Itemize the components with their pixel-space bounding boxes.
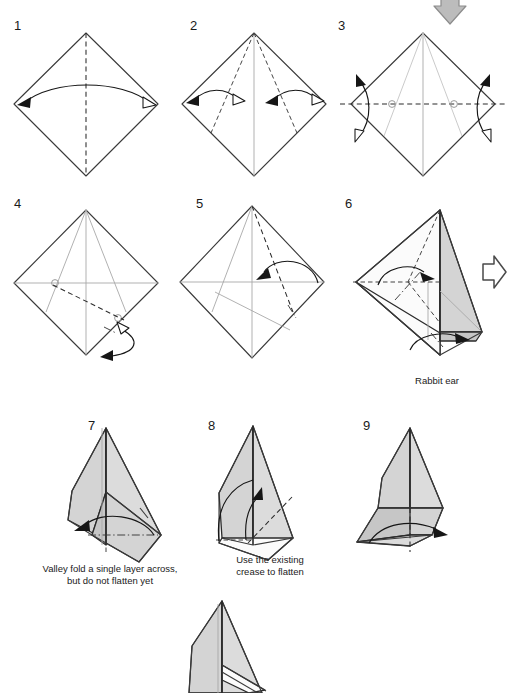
step-2-figure: 2 xyxy=(182,18,326,176)
step-3-arrowhead-left-solid xyxy=(356,74,366,87)
step-7-number: 7 xyxy=(88,418,95,433)
step-7-caption-line-1: Valley fold a single layer across, xyxy=(43,563,178,574)
step-5-number: 5 xyxy=(196,196,203,211)
step-9-number: 9 xyxy=(363,418,370,433)
step-1-figure: 1 xyxy=(14,18,158,176)
step-1-fold-arrow xyxy=(24,85,150,103)
step-4-valley-diagonal xyxy=(53,285,124,320)
step-8-figure: 8 Use the existing crease to flatten xyxy=(208,418,304,577)
origami-instruction-sheet: 1 2 3 xyxy=(0,0,507,693)
step-4-number: 4 xyxy=(14,196,21,211)
step-3-figure: 3 xyxy=(338,18,507,176)
step-3-arrowhead-left-hollow xyxy=(355,129,364,142)
step-4-arrowhead-solid xyxy=(100,350,113,361)
step-9-left-face xyxy=(378,428,410,508)
step-3-crease-right xyxy=(423,33,462,136)
step-2-arrowhead-right-solid xyxy=(265,95,278,106)
step-4-crease-right xyxy=(86,210,126,312)
step-1-arrowhead-hollow xyxy=(143,97,156,108)
cropped-turn-arrow-top xyxy=(434,0,466,24)
step-6-figure: 6 Rabbit ear xyxy=(345,196,506,386)
step-10-left-face xyxy=(189,601,222,693)
step-3-arrowhead-right-solid xyxy=(480,74,490,87)
step-5-arrowhead-solid xyxy=(256,268,271,280)
step-8-number: 8 xyxy=(208,418,215,433)
step-5-crease-diag xyxy=(215,292,290,330)
step-2-arrowhead-left-solid xyxy=(186,95,199,106)
step-5-crease-left xyxy=(212,206,252,312)
step-6-caption: Rabbit ear xyxy=(415,375,459,386)
step-8-left-face xyxy=(219,426,253,545)
step-4-figure: 4 xyxy=(14,196,158,361)
step-7-figure: 7 Valley fold a single layer across, but… xyxy=(43,418,178,586)
step-5-figure: 5 xyxy=(180,196,324,358)
step-2-arrowhead-left-hollow xyxy=(233,94,245,105)
step-6-turn-over-arrow xyxy=(483,256,506,288)
step-2-fold-arrow-right xyxy=(272,90,316,101)
origami-diagram-canvas: 1 2 3 xyxy=(0,0,507,693)
step-3-number: 3 xyxy=(338,18,345,33)
step-6-number: 6 xyxy=(345,196,352,211)
step-3-crease-left xyxy=(384,33,423,136)
step-5-fold-arrow xyxy=(264,261,318,283)
step-8-caption-line-1: Use the existing xyxy=(236,554,304,565)
step-8-caption-line-2: crease to flatten xyxy=(236,566,304,577)
step-1-number: 1 xyxy=(14,18,21,33)
step-3-arrowhead-right-hollow xyxy=(482,129,491,142)
step-9-arrowhead xyxy=(433,527,448,538)
step-10-partial-figure xyxy=(189,601,266,693)
step-2-valley-left xyxy=(211,33,254,133)
step-9-figure: 9 xyxy=(357,418,448,552)
step-2-fold-arrow-left xyxy=(193,90,237,101)
step-5-valley-crease xyxy=(252,206,293,312)
step-4-mountain-short xyxy=(104,327,116,333)
step-2-valley-right xyxy=(254,33,297,133)
step-2-number: 2 xyxy=(190,18,197,33)
step-7-caption-line-2: but do not flatten yet xyxy=(67,575,153,586)
step-4-fold-arrow xyxy=(112,330,134,356)
step-4-crease-left xyxy=(46,210,86,312)
